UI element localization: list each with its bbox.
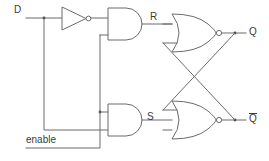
wire-enable bbox=[26, 35, 100, 148]
circuit-diagram-canvas: D enable R S Q Q bbox=[0, 0, 269, 161]
and-gate-top bbox=[108, 8, 142, 40]
label-output-qbar-text: Q bbox=[249, 113, 257, 124]
label-input-enable: enable bbox=[26, 135, 56, 145]
label-signal-r: R bbox=[150, 12, 157, 22]
nor-gate-top bbox=[172, 14, 216, 52]
nor-gate-bottom-bubble-icon bbox=[216, 117, 221, 122]
nor-gate-top-bubble-icon bbox=[216, 30, 221, 35]
not-gate bbox=[62, 7, 86, 30]
not-gate-bubble-icon bbox=[86, 16, 91, 21]
nor-gate-bottom bbox=[172, 101, 216, 139]
wire-d-branch-to-and-bottom bbox=[44, 18, 108, 130]
label-output-q: Q bbox=[249, 27, 257, 37]
and-gate-bottom bbox=[108, 104, 142, 136]
label-signal-s: S bbox=[147, 112, 154, 122]
label-input-d: D bbox=[14, 5, 21, 15]
label-output-qbar: Q bbox=[249, 113, 257, 124]
